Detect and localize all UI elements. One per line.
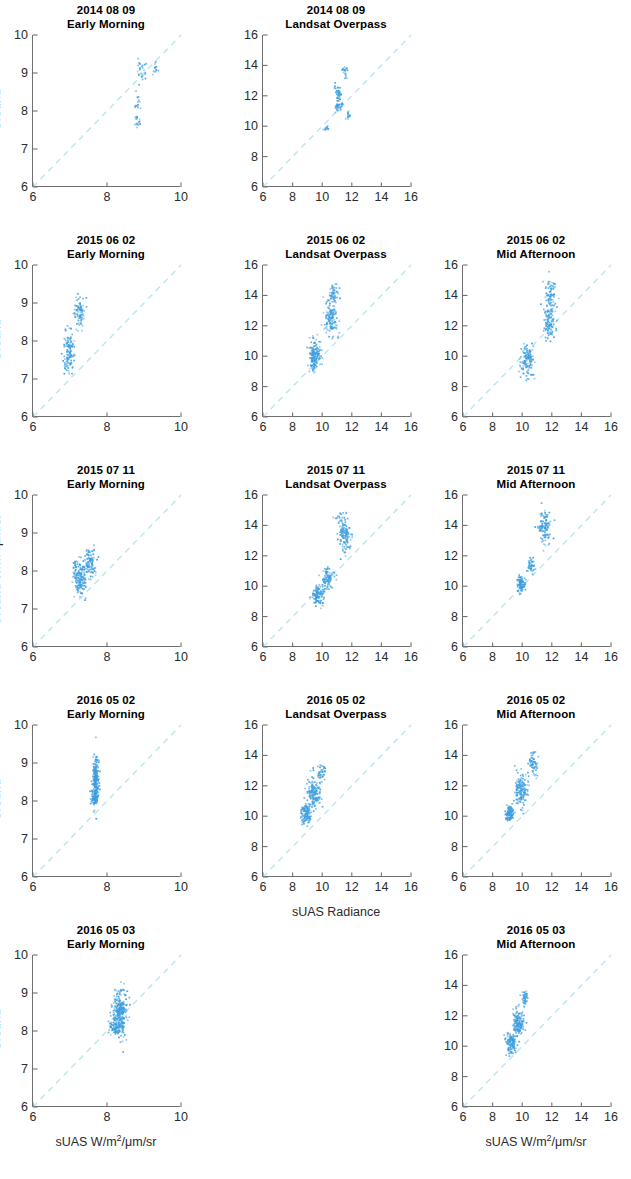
x-tick-label: 8: [104, 651, 111, 663]
y-tick-label: 8: [21, 105, 28, 117]
y-tick-label: 12: [444, 320, 458, 332]
x-tick-label: 14: [574, 881, 588, 893]
panel-title-date: 2014 08 09: [32, 3, 180, 17]
panel-title-time: Mid Afternoon: [462, 477, 610, 491]
scatter-canvas: [33, 495, 181, 647]
x-axis-label: sUAS W/m2/μm/sr: [462, 1135, 610, 1149]
x-tick-label: 12: [545, 881, 559, 893]
y-tick-label: 8: [251, 841, 258, 853]
identity-line: [33, 495, 181, 647]
y-tick-label: 16: [244, 29, 258, 41]
x-tick-label: 8: [489, 651, 496, 663]
y-tick-label: 10: [14, 489, 28, 501]
panel-title-date: 2015 06 02: [32, 233, 180, 247]
scatter-points: [300, 764, 326, 827]
x-tick-label: 8: [289, 881, 296, 893]
x-tick-label: 14: [374, 421, 388, 433]
x-tick-label: 6: [30, 881, 37, 893]
panel-title-time: Mid Afternoon: [462, 937, 610, 951]
y-tick-label: 12: [244, 90, 258, 102]
y-tick-label: 14: [444, 749, 458, 761]
y-tick-label: 8: [21, 795, 28, 807]
y-tick-label: 6: [251, 411, 258, 423]
x-tick-label: 10: [315, 651, 329, 663]
y-tick-label: 6: [451, 1101, 458, 1113]
y-tick-label: 6: [21, 181, 28, 193]
x-tick-label: 14: [374, 191, 388, 203]
y-tick-label: 14: [444, 979, 458, 991]
x-tick-label: 8: [489, 421, 496, 433]
y-tick-label: 16: [244, 719, 258, 731]
panel-title-time: Mid Afternoon: [462, 247, 610, 261]
x-tick-label: 10: [315, 421, 329, 433]
x-tick-label: 6: [460, 651, 467, 663]
panel-title-date: 2015 06 02: [262, 233, 410, 247]
panel-title-date: 2015 06 02: [462, 233, 610, 247]
y-tick-label: 6: [251, 641, 258, 653]
y-tick-label: 16: [444, 489, 458, 501]
x-tick-label: 10: [315, 191, 329, 203]
scatter-points: [134, 58, 159, 128]
y-tick-label: 12: [244, 550, 258, 562]
y-tick-label: 10: [444, 810, 458, 822]
scatter-points: [61, 293, 87, 375]
y-tick-label: 16: [444, 949, 458, 961]
scatter-points: [518, 271, 559, 381]
x-tick-label: 12: [345, 881, 359, 893]
y-tick-label: 6: [21, 411, 28, 423]
panel-title-time: Early Morning: [32, 477, 180, 491]
y-tick-label: 7: [21, 373, 28, 385]
x-tick-label: 6: [460, 1111, 467, 1123]
x-tick-label: 14: [374, 651, 388, 663]
y-tick-label: 12: [444, 780, 458, 792]
x-tick-label: 10: [315, 881, 329, 893]
panel-title-date: 2015 07 11: [462, 463, 610, 477]
y-tick-label: 10: [244, 120, 258, 132]
scatter-canvas: [33, 35, 181, 187]
y-tick-label: 16: [444, 719, 458, 731]
x-tick-label: 14: [574, 1111, 588, 1123]
y-tick-label: 8: [251, 151, 258, 163]
y-tick-label: 8: [451, 1071, 458, 1083]
identity-line: [463, 955, 611, 1107]
y-tick-label: 14: [244, 749, 258, 761]
y-tick-label: 14: [244, 289, 258, 301]
x-tick-label: 10: [515, 881, 529, 893]
scatter-canvas: [33, 725, 181, 877]
scatter-points: [309, 512, 353, 609]
scatter-canvas: [263, 265, 411, 417]
y-tick-label: 8: [21, 565, 28, 577]
scatter-canvas: [33, 265, 181, 417]
scatter-canvas: [263, 725, 411, 877]
y-tick-label: 6: [451, 411, 458, 423]
y-tick-label: 14: [244, 519, 258, 531]
x-tick-label: 6: [460, 421, 467, 433]
x-tick-label: 12: [345, 651, 359, 663]
panel-title-time: Early Morning: [32, 17, 180, 31]
x-tick-label: 14: [574, 421, 588, 433]
panel-title-time: Early Morning: [32, 247, 180, 261]
identity-line: [263, 725, 411, 877]
y-tick-label: 6: [251, 871, 258, 883]
x-tick-label: 10: [174, 881, 188, 893]
x-tick-label: 12: [545, 421, 559, 433]
y-tick-label: 10: [14, 29, 28, 41]
y-tick-label: 10: [244, 580, 258, 592]
y-tick-label: 10: [444, 1040, 458, 1052]
y-tick-label: 6: [451, 641, 458, 653]
y-tick-label: 7: [21, 143, 28, 155]
scatter-canvas: [463, 265, 611, 417]
scatter-canvas: [263, 35, 411, 187]
y-tick-label: 12: [444, 1010, 458, 1022]
plot-area-r2-c1: 6789106810: [32, 265, 180, 417]
scatter-canvas: [463, 955, 611, 1107]
scatter-points: [306, 283, 341, 373]
plot-area-r5-c3: 68101214166810121416: [462, 955, 610, 1107]
y-tick-label: 7: [21, 603, 28, 615]
panel-title-date: 2016 05 03: [32, 923, 180, 937]
x-tick-label: 6: [30, 191, 37, 203]
y-tick-label: 9: [21, 297, 28, 309]
y-tick-label: 14: [444, 519, 458, 531]
y-tick-label: 16: [244, 259, 258, 271]
x-tick-label: 8: [289, 191, 296, 203]
